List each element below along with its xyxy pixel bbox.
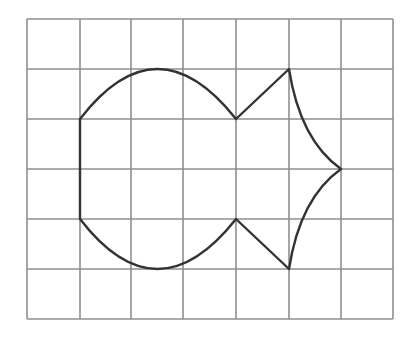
grid	[27, 19, 393, 319]
grid-diagram	[0, 0, 409, 340]
